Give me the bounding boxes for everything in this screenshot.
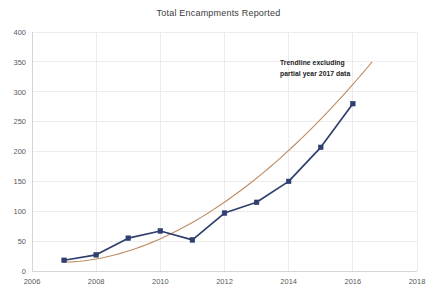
x-tick-label: 2014 [280, 277, 297, 286]
y-axis-tick-labels: 050100150200250300350400 [13, 28, 26, 276]
y-tick-label: 300 [13, 88, 26, 97]
x-tick-label: 2018 [409, 277, 426, 286]
y-tick-label: 400 [13, 28, 26, 37]
x-axis-tick-labels: 2006200820102012201420162018 [24, 277, 426, 286]
x-tick-label: 2012 [216, 277, 233, 286]
annotation-line-2: partial year 2017 data [280, 69, 376, 80]
trendline-annotation: Trendline excluding partial year 2017 da… [280, 58, 376, 79]
x-tick-label: 2010 [152, 277, 169, 286]
data-point-marker [158, 229, 163, 234]
data-point-marker [62, 258, 67, 263]
data-point-marker [222, 211, 227, 216]
y-tick-label: 250 [13, 117, 26, 126]
y-tick-label: 350 [13, 58, 26, 67]
x-tick-label: 2016 [344, 277, 361, 286]
data-point-markers [62, 101, 355, 262]
data-point-marker [126, 236, 131, 241]
chart-plot-area: 050100150200250300350400 200620082010201… [0, 0, 437, 295]
data-point-marker [190, 238, 195, 243]
y-tick-label: 100 [13, 207, 26, 216]
data-point-marker [94, 253, 99, 258]
y-tick-label: 150 [13, 177, 26, 186]
data-point-marker [286, 179, 291, 184]
y-tick-label: 200 [13, 147, 26, 156]
x-tick-label: 2008 [88, 277, 105, 286]
data-point-marker [318, 145, 323, 150]
data-point-marker [254, 200, 259, 205]
chart-container: Total Encampments Reported 0501001502002… [0, 0, 437, 295]
y-tick-label: 0 [22, 267, 26, 276]
data-point-marker [351, 101, 356, 106]
y-tick-label: 50 [18, 237, 26, 246]
data-series-line [64, 104, 353, 261]
x-tick-label: 2006 [24, 277, 41, 286]
annotation-line-1: Trendline excluding [280, 58, 376, 69]
